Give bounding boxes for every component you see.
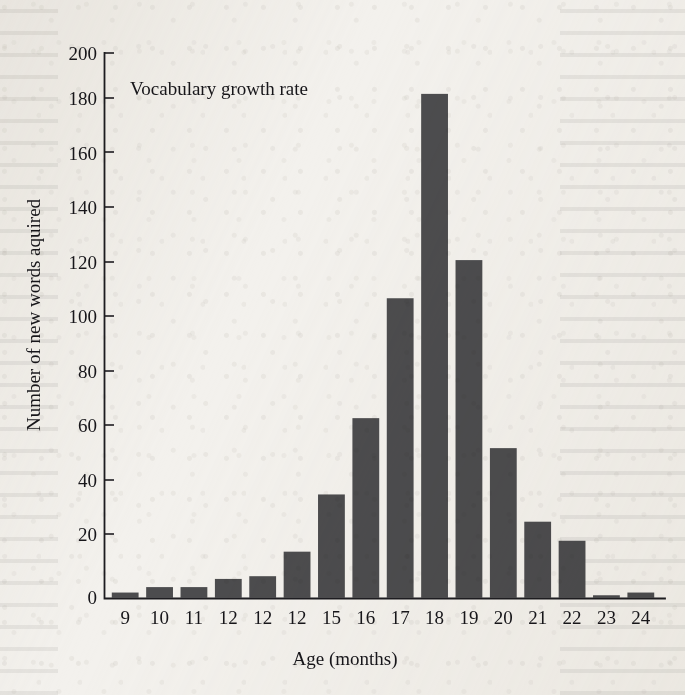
y-tick-label: 40 [78,470,97,491]
y-axis-title: Number of new words aquired [23,198,44,431]
bar-series [112,94,654,598]
y-tick-label: 60 [78,415,97,436]
x-tick-label: 22 [563,607,582,628]
chart-title-annotation: Vocabulary growth rate [130,78,308,99]
x-tick-label: 12 [288,607,307,628]
bar [249,576,276,598]
chart-canvas: Number of new words aquired 200 180 160 … [0,0,685,695]
bar [559,541,586,598]
y-axis-tick-labels: 200 180 160 140 120 100 80 60 40 20 0 [69,43,98,608]
y-tick-label: 160 [69,143,98,164]
bar [490,448,517,598]
bar [181,587,208,598]
bar [318,494,345,598]
x-axis-title: Age (months) [292,648,397,670]
bar [421,94,448,598]
x-tick-label: 10 [150,607,169,628]
x-tick-label: 16 [356,607,375,628]
x-tick-label: 23 [597,607,616,628]
bar [215,579,242,598]
x-tick-label: 11 [185,607,203,628]
x-tick-label: 21 [528,607,547,628]
axis-spines [105,53,666,599]
x-tick-label: 24 [631,607,651,628]
y-tick-label: 100 [69,306,98,327]
y-tick-label: 20 [78,524,97,545]
bar [284,552,311,598]
bar [146,587,173,598]
bar [524,522,551,598]
y-tick-label: 120 [69,252,98,273]
bar [352,418,379,598]
bar [593,595,620,598]
x-tick-label: 9 [120,607,130,628]
y-tick-label: 0 [88,587,98,608]
x-tick-label: 18 [425,607,444,628]
vocabulary-growth-bar-chart: Number of new words aquired 200 180 160 … [0,0,685,695]
x-tick-label: 12 [253,607,272,628]
y-tick-label: 180 [69,88,98,109]
bar [627,593,654,598]
x-axis-tick-labels: 9101112121215161718192021222324 [120,607,650,628]
y-axis-tick-marks [104,53,114,534]
y-tick-label: 80 [78,361,97,382]
x-tick-label: 17 [391,607,410,628]
bar [456,260,483,598]
x-tick-label: 19 [459,607,478,628]
bar [112,593,139,598]
y-tick-label: 200 [69,43,98,64]
bar [387,298,414,598]
x-tick-label: 12 [219,607,238,628]
x-tick-label: 15 [322,607,341,628]
x-tick-label: 20 [494,607,513,628]
y-tick-label: 140 [69,197,98,218]
